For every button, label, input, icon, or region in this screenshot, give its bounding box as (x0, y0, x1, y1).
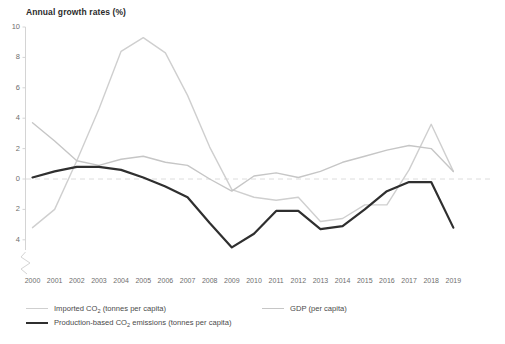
chart-container: Annual growth rates (%) 108642024 200020… (0, 0, 505, 344)
legend-label-imported: Imported CO2 (tonnes per capita) (54, 304, 166, 313)
axis-layer (21, 27, 492, 274)
legend-label-gdp: GDP (per capita) (290, 304, 347, 313)
y-axis-label: 2 (2, 204, 20, 213)
chart-plot-area (0, 0, 505, 344)
legend-swatch-imported-icon (26, 308, 48, 309)
series-line-imported (33, 38, 454, 228)
y-axis-label: 6 (2, 83, 20, 92)
legend-item-imported[interactable]: Imported CO2 (tonnes per capita) (26, 304, 166, 313)
legend-item-production[interactable]: Production-based CO2 emissions (tonnes p… (26, 318, 231, 327)
legend-swatch-gdp-icon (262, 308, 284, 309)
series-layer (33, 38, 454, 248)
y-axis-label: 2 (2, 144, 20, 153)
y-axis-label: 4 (2, 235, 20, 244)
y-axis-label: 10 (2, 22, 20, 31)
x-axis-label: 2019 (440, 277, 466, 284)
axis-break-icon (21, 252, 30, 274)
series-line-gdp (33, 123, 454, 191)
legend-item-gdp[interactable]: GDP (per capita) (262, 304, 347, 313)
legend-label-production: Production-based CO2 emissions (tonnes p… (54, 318, 231, 327)
y-axis-label: 4 (2, 113, 20, 122)
legend-swatch-production-icon (26, 322, 48, 324)
y-axis-label: 8 (2, 52, 20, 61)
y-axis-label: 0 (2, 174, 20, 183)
